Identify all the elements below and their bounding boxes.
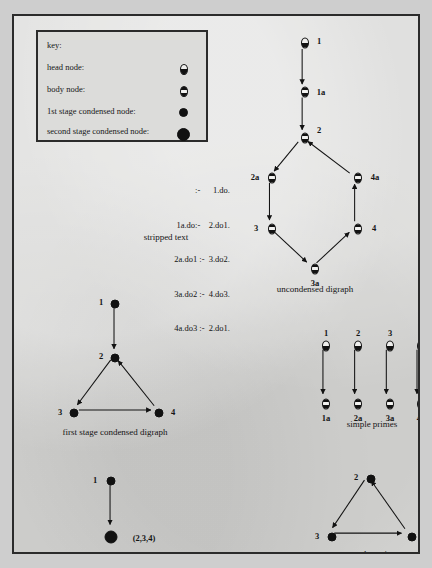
simple-prime-label-1a: 1a xyxy=(322,413,331,423)
complex-prime-node-2 xyxy=(367,475,376,484)
simple-prime-label-1: 1 xyxy=(324,328,328,338)
simple-prime-label-4: 4 xyxy=(419,328,420,338)
complex-prime-node-4 xyxy=(408,533,417,542)
second-stage-label-1: 1 xyxy=(93,475,97,485)
simple-prime-node-1 xyxy=(322,341,330,352)
simple-prime-node-3a xyxy=(386,399,394,410)
uncondensed-label-2: 2 xyxy=(317,125,321,135)
uncondensed-label-4: 4 xyxy=(372,223,376,233)
uncondensed-label-1: 1 xyxy=(317,36,321,46)
uncondensed-label-2a: 2a xyxy=(251,172,260,182)
second-stage-label-234: (2,3,4) xyxy=(133,533,156,543)
simple-prime-node-2 xyxy=(354,341,362,352)
uncondensed-node-3a xyxy=(311,264,319,275)
uncondensed-label-4a: 4a xyxy=(371,172,380,182)
complex-prime-label-2: 2 xyxy=(354,472,358,482)
second-stage-condensed-caption: 2nd stage condensed digraph xyxy=(62,550,166,554)
uncondensed-node-1a xyxy=(301,87,309,98)
uncondensed-digraph-caption: uncondensed digraph xyxy=(277,284,354,294)
uncondensed-node-1 xyxy=(301,38,309,49)
first-stage-node-3 xyxy=(70,409,79,418)
uncondensed-node-3 xyxy=(268,224,276,235)
uncondensed-node-4a xyxy=(354,173,362,184)
simple-prime-label-3: 3 xyxy=(388,328,392,338)
uncondensed-node-4 xyxy=(354,224,362,235)
simple-prime-node-4 xyxy=(417,341,420,352)
uncondensed-node-2 xyxy=(301,133,309,144)
first-stage-label-1: 1 xyxy=(99,297,103,307)
first-stage-label-3: 3 xyxy=(58,407,62,417)
first-stage-condensed-caption: first stage condensed digraph xyxy=(62,427,167,437)
first-stage-node-4 xyxy=(155,409,164,418)
complex-prime-node-3 xyxy=(328,533,337,542)
simple-prime-label-4a: 4a xyxy=(417,413,420,423)
second-stage-node-234 xyxy=(105,531,118,544)
first-stage-node-1 xyxy=(111,300,120,309)
first-stage-label-4: 4 xyxy=(171,407,175,417)
simple-prime-node-1a xyxy=(322,399,330,410)
simple-prime-node-2a xyxy=(354,399,362,410)
simple-prime-node-4a xyxy=(417,399,420,410)
simple-prime-node-3 xyxy=(386,341,394,352)
simple-prime-label-2: 2 xyxy=(356,328,360,338)
complex-prime-caption: complex prime xyxy=(344,549,398,554)
complex-prime-label-3: 3 xyxy=(315,531,319,541)
simple-primes-caption: simple primes xyxy=(347,419,398,429)
first-stage-label-2: 2 xyxy=(99,351,103,361)
graph-nodes-layer: 11a22a4a343a12341(2,3,4)23411a22a33a44a xyxy=(14,16,420,554)
scanned-figure-page: key: head node: body node: 1st stage con… xyxy=(12,14,420,554)
first-stage-node-2 xyxy=(111,354,120,363)
second-stage-node-1 xyxy=(107,477,116,486)
uncondensed-label-1a: 1a xyxy=(317,87,326,97)
uncondensed-node-2a xyxy=(268,173,276,184)
uncondensed-label-3: 3 xyxy=(254,223,258,233)
